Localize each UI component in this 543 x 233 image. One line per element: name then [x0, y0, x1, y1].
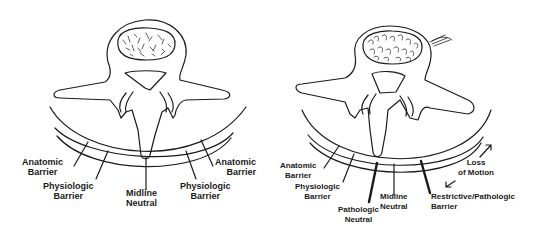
physiologic-barrier-tick-right: [186, 151, 196, 179]
label-pathologic-neutral: Pathologic Neutral: [338, 205, 379, 225]
label-loss-of-motion: Loss of Motion: [458, 158, 494, 178]
anatomic-barrier-tick-right: [201, 140, 213, 166]
restrictive-barrier-tick: [421, 161, 430, 193]
label-physiologic-barrier-right: Physiologic Barrier: [180, 181, 231, 201]
label-physiologic-barrier-left: Physiologic Barrier: [43, 181, 94, 201]
label-anatomic-barrier-right: Anatomic Barrier: [215, 157, 256, 177]
physiologic-barrier-tick-left: [96, 151, 108, 179]
range-arc-inner-1-dysfunction: [308, 135, 483, 165]
anatomic-barrier-tick-left: [74, 142, 88, 166]
loss-of-motion-arrow-up-icon: [480, 145, 491, 157]
label-anatomic-barrier-dysfunction: Anatomic Barrier: [280, 161, 316, 181]
vertebra-normal-illustration: [54, 20, 230, 159]
pathologic-neutral-tick: [369, 163, 377, 202]
loss-of-motion-arrow-down-icon: [446, 181, 455, 187]
label-anatomic-barrier-left: Anatomic Barrier: [22, 157, 63, 177]
label-midline-neutral: Midline Neutral: [126, 188, 157, 208]
vertebra-dysfunction-illustration: [296, 26, 474, 157]
label-physiologic-barrier-dysfunction: Physiologic Barrier: [295, 182, 340, 202]
cancellous-texture-dysfunction: [368, 35, 418, 61]
label-restrictive-pathologic-barrier: Restrictive/Pathologic Barrier: [431, 192, 515, 212]
cancellous-texture: [123, 33, 171, 56]
muscle-spasm-glyph: [430, 35, 452, 46]
label-midline-neutral-dysfunction: Midline Neutral: [380, 192, 408, 212]
